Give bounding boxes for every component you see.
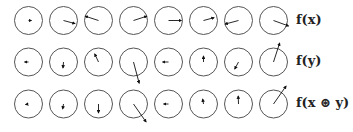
phasor-cell <box>120 7 148 35</box>
phasor-arrow-icon <box>95 54 99 62</box>
phasor-cell <box>155 48 183 76</box>
phasor-cell <box>260 43 288 76</box>
row-label-fx: f(x) <box>296 12 322 27</box>
phasor-cell <box>85 7 113 35</box>
phasor-arrow-icon <box>204 18 215 21</box>
phasor-cell <box>190 48 218 76</box>
phasor-cell <box>50 7 78 35</box>
phasor-cell <box>120 90 148 122</box>
phasor-arrow-icon <box>134 16 147 20</box>
phasor-cell <box>85 90 113 118</box>
phasor-cell <box>85 48 113 76</box>
phasor-cell <box>155 7 183 35</box>
phasor-cell <box>190 7 218 35</box>
phasor-arrow-icon <box>235 62 239 69</box>
phasor-cell <box>260 86 288 118</box>
phasor-cell <box>50 90 78 118</box>
phasor-cell <box>15 90 43 118</box>
phasor-cell <box>50 48 78 76</box>
phasor-cell <box>155 90 183 118</box>
phasor-cell <box>190 90 218 118</box>
phasor-arrow-icon <box>85 16 98 20</box>
phasor-arrow-icon <box>225 21 239 25</box>
phasor-row <box>15 7 289 35</box>
phasor-cell <box>15 48 43 76</box>
phasor-cell <box>225 48 253 76</box>
phasor-cell <box>260 7 289 35</box>
phasor-arrow-icon <box>274 43 280 62</box>
phasor-cell <box>225 7 253 35</box>
row-label-fxy: f(x ⊛ y) <box>296 95 349 110</box>
phasor-arrow-icon <box>64 21 76 24</box>
row-label-fy: f(y) <box>296 53 321 68</box>
phasor-arrow-icon <box>203 99 204 104</box>
phasor-cell <box>120 48 148 83</box>
phasor-row <box>15 43 288 83</box>
phasor-cell <box>15 7 43 35</box>
phasor-row <box>15 86 288 122</box>
phasor-grid <box>15 7 289 123</box>
phasor-arrow-icon <box>274 21 289 26</box>
phasor-arrow-icon <box>134 62 140 83</box>
phasor-cell <box>225 90 253 118</box>
phasor-arrow-icon <box>63 104 64 109</box>
phasor-arrow-icon <box>26 104 29 105</box>
phasor-arrow-icon <box>63 62 64 68</box>
